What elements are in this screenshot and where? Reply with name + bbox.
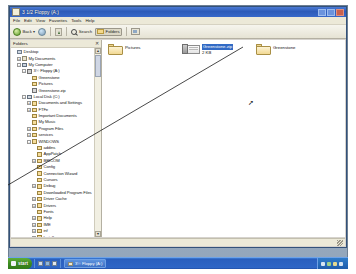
collapse-icon[interactable]: - [22,95,26,99]
media-player-icon[interactable] [52,261,57,266]
expand-icon[interactable]: + [32,223,36,227]
folders-pane-title: Folders [13,40,28,47]
collapse-icon[interactable]: - [17,63,21,67]
folder-icon [37,191,42,195]
tree-scrollbar[interactable]: ▲ ▼ [94,48,101,237]
folder-icon [97,29,104,34]
tree-item-label: Install [44,235,54,237]
file-items-container: PicturesGreenstone.zip2 KBGreenstone [102,40,345,55]
forward-button[interactable] [38,28,46,36]
menu-view[interactable]: View [36,17,45,24]
expand-icon[interactable]: + [32,159,36,163]
file-item-label: Greenstone.zip [202,44,233,50]
tree-item-label: WINDOWS [39,139,59,145]
tree-item-label: FTFe [39,107,49,113]
tree-item-label: Documents and Settings [39,100,82,106]
menu-help[interactable]: Help [85,17,94,24]
menu-tools[interactable]: Tools [71,17,81,24]
expand-icon[interactable]: + [32,229,36,233]
folder-icon [32,120,37,124]
file-item[interactable]: Pictures [108,44,160,55]
tree-item-label: Program Files [39,126,64,132]
toolbar-separator [50,27,51,36]
tree-item-label: Pictures [39,81,53,87]
file-list-pane[interactable]: PicturesGreenstone.zip2 KBGreenstone ➚ [102,40,345,237]
file-item-size: 2 KB [202,50,233,56]
expand-icon[interactable]: + [17,57,21,61]
back-button[interactable]: Back ▾ [13,28,35,36]
floppy-icon [27,69,32,73]
maximize-button[interactable] [327,9,335,16]
expand-icon[interactable]: + [27,133,31,137]
file-item-text: Pictures [125,44,141,51]
shield-icon[interactable] [333,262,337,266]
minimize-button[interactable] [318,9,326,16]
explorer-window: 3 1/2 Floppy (A:) File Edit View Favorit… [9,6,347,248]
tree-item-label: Driver Cache [44,196,67,202]
folder-icon [37,159,42,163]
folders-button[interactable]: Folders [95,28,121,36]
my-computer-icon [22,63,27,67]
expand-icon[interactable]: + [27,101,31,105]
quick-launch-bar [34,259,61,268]
menu-edit[interactable]: Edit [24,17,32,24]
tree-item-label: Fonts [44,209,54,215]
tree-item-label: Debug [44,183,56,189]
folder-icon [32,133,37,137]
back-arrow-icon [13,28,21,36]
expand-icon[interactable]: + [32,204,36,208]
show-desktop-icon[interactable] [38,261,43,266]
menu-file[interactable]: File [13,17,20,24]
taskbar-window-button[interactable]: 3½ Floppy (A:) [64,259,106,268]
tree-item-label: AppPatch [44,151,61,157]
folder-icon [32,108,37,112]
folder-icon [37,203,42,207]
expand-icon[interactable]: + [32,236,36,237]
folder-icon [108,44,123,55]
folders-label: Folders [106,29,120,35]
browser-icon[interactable] [45,261,50,266]
search-button[interactable]: Search [71,29,92,35]
screenshot-root: 3 1/2 Floppy (A:) File Edit View Favorit… [0,0,356,274]
tree-item-label: IME [44,222,51,228]
system-tray [317,258,348,269]
network-icon[interactable] [321,262,325,266]
resize-grip[interactable] [337,240,343,246]
folder-icon [37,197,42,201]
scroll-up-icon[interactable]: ▲ [95,48,101,54]
usb-icon[interactable] [339,262,343,266]
up-button[interactable] [55,28,62,36]
close-icon[interactable]: ✕ [95,40,99,47]
tree-item-label: Help [44,215,52,221]
collapse-icon[interactable]: - [27,140,31,144]
chevron-down-icon[interactable]: ▾ [33,29,35,35]
tree-item[interactable]: +Install [12,234,94,237]
collapse-icon[interactable]: - [22,69,26,73]
views-button[interactable] [131,28,140,35]
scroll-down-icon[interactable]: ▼ [95,231,101,237]
tree-item-label: Desktop [24,49,39,55]
desktop-icon [17,50,22,54]
expand-icon[interactable]: + [32,216,36,220]
expand-icon[interactable]: + [27,127,31,131]
tree-item-label: Downloaded Program Files [44,190,92,196]
menu-favorites[interactable]: Favorites [49,17,67,24]
folders-tree-wrapper: Desktop+My Documents-My Computer-3½ Flop… [11,48,101,237]
folder-icon [37,146,42,150]
folder-icon [32,82,37,86]
file-item[interactable]: Greenstone [256,44,308,55]
my-documents-icon [22,56,27,60]
close-button[interactable] [336,9,344,16]
window-titlebar[interactable]: 3 1/2 Floppy (A:) [10,7,346,17]
scrollbar-thumb[interactable] [95,55,101,77]
start-button[interactable]: start [8,258,32,269]
folder-icon [37,171,42,175]
expand-icon[interactable]: + [32,197,36,201]
search-icon [71,29,77,35]
expand-icon[interactable]: + [27,108,31,112]
volume-icon[interactable] [327,262,331,266]
folder-icon [37,178,42,182]
file-item[interactable]: Greenstone.zip2 KB [182,44,234,55]
forward-arrow-icon [38,28,46,36]
expand-icon[interactable]: + [32,184,36,188]
